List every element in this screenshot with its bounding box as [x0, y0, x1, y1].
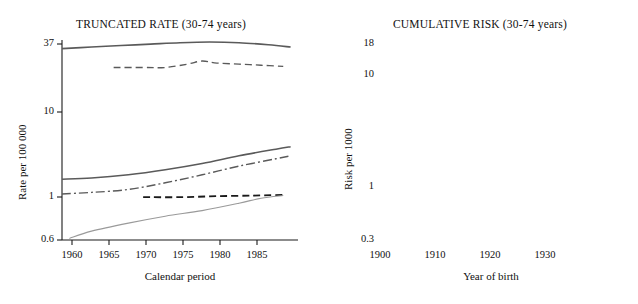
series-line-middle-solid [62, 147, 291, 179]
x-axis-title-left: Calendar period [62, 270, 298, 282]
x-axis-title-right: Year of birth [380, 270, 602, 282]
series-line-top-solid [62, 42, 291, 49]
y-tick-label-left-1: 1 [26, 190, 54, 201]
y-tick-label-right-1: 1 [344, 180, 374, 191]
panel-cumulative-risk: CUMULATIVE RISK (30-74 years) Risk per 1… [322, 0, 638, 304]
y-tick-label-right-0: 0.3 [344, 233, 374, 244]
y-tick-label-right-2: 10 [344, 68, 374, 79]
y-axis-title-left: Rate per 100 000 [16, 125, 28, 200]
series-line-middle-dashdot [62, 156, 291, 194]
x-tick-label-left-5: 1985 [237, 249, 277, 260]
y-tick-label-left-2: 10 [26, 105, 54, 116]
panel-title-left: TRUNCATED RATE (30-74 years) [0, 18, 322, 30]
plot-area-left [62, 40, 298, 240]
panel-truncated-rate: TRUNCATED RATE (30-74 years) Rate per 10… [0, 0, 322, 304]
y-tick-label-left-0: 0.6 [26, 233, 54, 244]
x-tick-label-left-2: 1970 [126, 249, 166, 260]
chart-svg-left [62, 40, 298, 240]
x-tick-label-left-0: 1960 [52, 249, 92, 260]
x-tick-label-left-1: 1965 [89, 249, 129, 260]
figure-canvas: TRUNCATED RATE (30-74 years) Rate per 10… [0, 0, 638, 304]
y-tick-label-left-3: 37 [26, 37, 54, 48]
x-tick-label-right-2: 1920 [470, 249, 510, 260]
y-tick-label-right-3: 18 [344, 37, 374, 48]
x-tick-label-left-3: 1975 [163, 249, 203, 260]
x-tick-label-right-1: 1910 [415, 249, 455, 260]
x-ticks-left [72, 240, 257, 245]
x-tick-label-right-0: 1900 [360, 249, 400, 260]
series-line-short-dashed-flat [143, 195, 283, 197]
y-ticks-left [57, 44, 62, 240]
x-tick-label-left-4: 1980 [200, 249, 240, 260]
x-tick-label-right-3: 1930 [525, 249, 565, 260]
series-line-bottom-light [69, 196, 283, 239]
panel-title-right: CUMULATIVE RISK (30-74 years) [322, 18, 638, 30]
series-line-upper-dashed [114, 61, 284, 68]
